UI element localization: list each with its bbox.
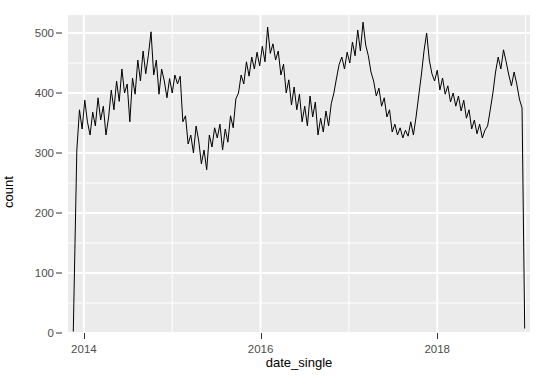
y-tick-mark [56,153,62,154]
x-tick-mark [84,333,85,339]
x-tick-mark [261,333,262,339]
data-line-count [73,22,524,331]
y-tick-mark [56,213,62,214]
x-tick-mark [437,333,438,339]
plot-panel [68,15,530,333]
x-tick-label: 2018 [424,343,450,355]
x-tick-label: 2016 [248,343,274,355]
y-axis-title: count [1,172,16,212]
y-tick-label: 300 [35,147,54,159]
x-tick-label: 2014 [71,343,97,355]
y-tick-mark [56,273,62,274]
y-tick-mark [56,333,62,334]
ggplot-chart: 0100200300400500 count 201420162018 date… [0,0,547,384]
x-axis-title: date_single [68,355,530,370]
plot-svg [68,15,530,333]
y-tick-label: 0 [48,327,54,339]
y-tick-label: 100 [35,267,54,279]
y-tick-label: 500 [35,27,54,39]
y-tick-mark [56,93,62,94]
y-tick-mark [56,33,62,34]
y-tick-label: 400 [35,87,54,99]
y-tick-label: 200 [35,207,54,219]
